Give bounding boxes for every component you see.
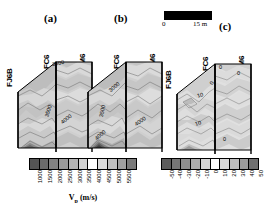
scale-bar-min-label: 0 — [162, 20, 166, 28]
colorbar-cell — [40, 159, 50, 169]
colorbar-tick-label: 5000 — [116, 170, 122, 183]
colorbar-cell — [220, 159, 230, 169]
colorbar-cell — [249, 159, 258, 169]
colorbar-cell — [88, 159, 98, 169]
colorbar-cell — [98, 159, 108, 169]
colorbar-tick-label: 1500 — [47, 170, 53, 183]
colorbar-cell — [118, 159, 128, 169]
contour-label-c-4: 0 — [223, 136, 226, 142]
colorbar-tick-label: 30 — [240, 170, 246, 177]
colorbar-tick-label: -30 — [186, 170, 192, 179]
difference-colorbar: -50-40-30-20-1001020304050 — [161, 158, 259, 192]
panel-letter-c: (c) — [219, 20, 231, 32]
colorbar-tick-label: 5500 — [126, 170, 132, 183]
vp-units: (m/s) — [78, 193, 97, 202]
difference-colorbar-ticks: -50-40-30-20-1001020304050 — [161, 170, 259, 192]
colorbar-cell — [162, 159, 172, 169]
colorbar-tick-label: 3500 — [86, 170, 92, 183]
colorbar-tick-label: -40 — [177, 170, 183, 179]
scale-bar: 0 15 m — [160, 11, 220, 30]
colorbar-cell — [69, 159, 79, 169]
colorbar-tick-label: 40 — [249, 170, 255, 177]
colorbar-cell — [127, 159, 136, 169]
vp-colorbar-ticks: 1000150020002500300035004000450050005500 — [29, 170, 137, 192]
well-label-fj6b-panel-a: FJ6B — [5, 69, 14, 87]
scale-bar-labels: 0 15 m — [160, 20, 220, 30]
contour-label-c-6: 0 — [237, 70, 240, 76]
colorbar-tick-label: 4500 — [106, 170, 112, 183]
panel-letter-b: (b) — [114, 12, 127, 24]
scale-bar-max-label: 15 m — [193, 20, 207, 28]
vp-colorbar: 1000150020002500300035004000450050005500… — [29, 158, 137, 203]
colorbar-tick-label: 2000 — [57, 170, 63, 183]
fence-panel-b: 3000 3500 4000 4000 — [86, 48, 182, 153]
colorbar-tick-label: 3000 — [77, 170, 83, 183]
colorbar-tick-label: 2500 — [67, 170, 73, 183]
colorbar-tick-label: -20 — [195, 170, 201, 179]
figure-root: (a) (b) (c) 0 15 m FJ6B FC6 FM6 FJ6B FC6… — [0, 0, 276, 203]
colorbar-cell — [30, 159, 40, 169]
colorbar-cell — [230, 159, 240, 169]
colorbar-cell — [240, 159, 250, 169]
colorbar-tick-label: -10 — [204, 170, 210, 179]
colorbar-cell — [49, 159, 59, 169]
colorbar-cell — [181, 159, 191, 169]
colorbar-cell — [201, 159, 211, 169]
colorbar-tick-label: 4000 — [96, 170, 102, 183]
colorbar-tick-label: 1000 — [37, 170, 43, 183]
colorbar-cell — [59, 159, 69, 169]
fence-panel-c: 0 10 10 0 0 0 — [175, 50, 271, 155]
colorbar-cell — [108, 159, 118, 169]
colorbar-cell — [191, 159, 201, 169]
panel-letter-a: (a) — [44, 12, 57, 24]
colorbar-cell — [79, 159, 89, 169]
colorbar-tick-label: 10 — [222, 170, 228, 177]
scale-bar-fill — [164, 11, 212, 20]
colorbar-tick-label: 50 — [258, 170, 264, 177]
colorbar-tick-label: -50 — [169, 170, 175, 179]
difference-colorbar-strip — [161, 158, 259, 170]
colorbar-cell — [211, 159, 221, 169]
contour-label-c-1: 0 — [219, 64, 222, 70]
vp-colorbar-strip — [29, 158, 137, 170]
colorbar-tick-label: 0 — [213, 170, 219, 173]
vp-colorbar-title: Vp (m/s) — [29, 193, 137, 203]
colorbar-cell — [172, 159, 182, 169]
colorbar-tick-label: 20 — [231, 170, 237, 177]
